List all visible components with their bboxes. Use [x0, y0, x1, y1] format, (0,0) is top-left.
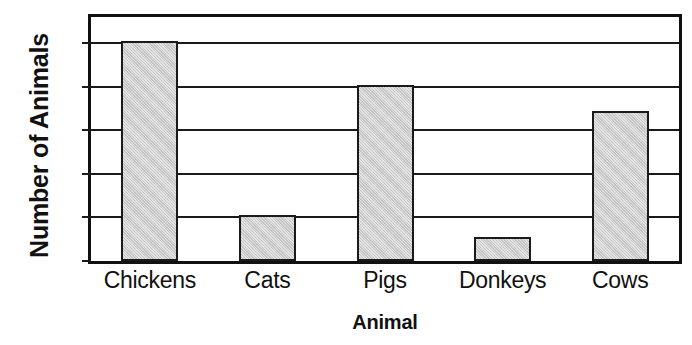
x-axis-category-label: Cows — [561, 269, 679, 292]
plot-area — [88, 14, 682, 264]
y-axis-tick — [82, 42, 91, 44]
x-axis-title: Animal — [88, 311, 682, 334]
y-axis-tick — [82, 129, 91, 131]
x-axis-category-label: Pigs — [326, 269, 444, 292]
bar — [121, 41, 178, 261]
x-axis-category-label: Cats — [209, 269, 327, 292]
bar — [474, 237, 531, 261]
x-axis-category-label: Donkeys — [444, 269, 562, 292]
y-axis-tick — [82, 173, 91, 175]
bar — [592, 111, 649, 261]
y-axis-title: Number of Animals — [25, 11, 54, 281]
y-axis-tick — [82, 260, 91, 262]
bar — [357, 85, 414, 261]
x-axis-category-label: Chickens — [91, 269, 209, 292]
bars-layer — [91, 17, 679, 261]
bar — [239, 215, 296, 261]
bar-chart: Number of Animals 0246810 ChickensCatsPi… — [0, 0, 692, 345]
y-axis-tick — [82, 216, 91, 218]
y-axis-tick — [82, 86, 91, 88]
